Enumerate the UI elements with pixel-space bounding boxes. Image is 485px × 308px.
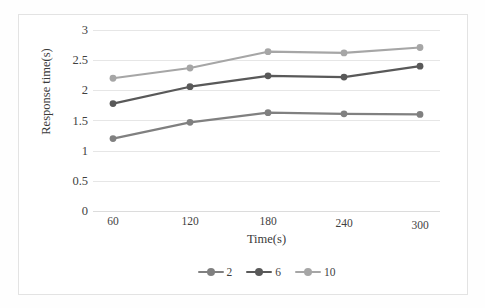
data-point-10-300	[417, 44, 424, 51]
data-point-10-180	[265, 48, 272, 55]
data-point-6-240	[341, 74, 348, 81]
data-point-6-300	[417, 63, 424, 70]
data-point-2-120	[187, 119, 194, 126]
data-point-6-180	[265, 72, 272, 79]
series-6	[110, 63, 424, 107]
legend-marker-icon-10	[295, 267, 321, 277]
data-point-10-120	[187, 65, 194, 72]
legend-marker-icon-2	[198, 267, 224, 277]
series-2	[110, 109, 424, 142]
series-layer	[0, 0, 485, 308]
legend-label-2: 2	[227, 266, 233, 278]
legend-dot-6	[255, 268, 263, 276]
data-point-10-60	[110, 75, 117, 82]
chart-figure: 3 2.5 2 1.5 1 0.5 0 Response time(s) 60 …	[0, 0, 485, 308]
legend-marker-icon-6	[246, 267, 272, 277]
data-point-2-60	[110, 135, 117, 142]
data-point-2-240	[341, 110, 348, 117]
legend-dot-10	[304, 268, 312, 276]
data-point-2-300	[417, 111, 424, 118]
data-point-6-120	[187, 83, 194, 90]
data-point-2-180	[265, 109, 272, 116]
legend-item-6[interactable]: 6	[246, 266, 281, 278]
legend-label-10: 10	[324, 266, 336, 278]
chart-legend: 2 6 10	[93, 266, 440, 278]
legend-item-2[interactable]: 2	[198, 266, 233, 278]
data-point-6-60	[110, 100, 117, 107]
legend-item-10[interactable]: 10	[295, 266, 336, 278]
legend-label-6: 6	[275, 266, 281, 278]
data-point-10-240	[341, 50, 348, 57]
legend-dot-2	[207, 268, 215, 276]
series-line-2	[113, 113, 420, 139]
